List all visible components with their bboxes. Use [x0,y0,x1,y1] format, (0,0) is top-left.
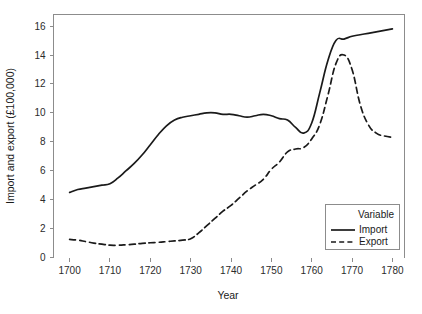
x-tick-label: 1720 [139,265,162,276]
y-axis-title: Import and export (£100,000) [4,68,16,204]
line-chart: 0246810121416 17001710172017301740175017… [0,0,422,314]
x-tick-label: 1740 [220,265,243,276]
legend-title: Variable [358,209,394,220]
y-axis-ticks: 0246810121416 [34,21,53,263]
x-tick-label: 1750 [260,265,283,276]
y-tick-label: 14 [34,50,46,61]
y-tick-label: 10 [34,107,46,118]
x-axis-title: Year [217,289,239,301]
x-tick-label: 1770 [341,265,364,276]
y-tick-label: 6 [40,165,46,176]
x-axis-ticks: 170017101720173017401750176017701780 [59,258,404,276]
y-tick-label: 12 [34,78,46,89]
legend-label-export: Export [359,236,388,247]
legend-label-import: Import [359,224,388,235]
chart-legend: Variable Import Export [325,204,399,249]
y-tick-label: 2 [40,223,46,234]
y-tick-label: 4 [40,194,46,205]
x-tick-label: 1730 [180,265,203,276]
chart-container: 0246810121416 17001710172017301740175017… [0,0,422,314]
y-tick-label: 16 [34,21,46,32]
x-tick-label: 1780 [381,265,404,276]
y-tick-label: 8 [40,136,46,147]
x-tick-label: 1700 [59,265,82,276]
y-tick-label: 0 [40,252,46,263]
series-line-import [70,29,393,192]
x-tick-label: 1710 [99,265,122,276]
x-tick-label: 1760 [301,265,324,276]
